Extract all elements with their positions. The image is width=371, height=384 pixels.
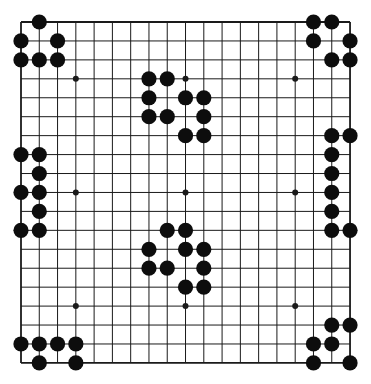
black-stone[interactable] [324, 52, 339, 67]
black-stone[interactable] [178, 90, 193, 105]
black-stone[interactable] [32, 52, 47, 67]
black-stone[interactable] [68, 336, 83, 351]
black-stone[interactable] [32, 336, 47, 351]
black-stone[interactable] [50, 33, 65, 48]
black-stone[interactable] [13, 52, 28, 67]
black-stone[interactable] [324, 223, 339, 238]
star-point [183, 189, 189, 195]
black-stone[interactable] [32, 185, 47, 200]
black-stone[interactable] [13, 223, 28, 238]
black-stone[interactable] [196, 242, 211, 257]
star-point [183, 303, 189, 309]
black-stone[interactable] [141, 242, 156, 257]
go-board[interactable] [0, 0, 371, 384]
black-stone[interactable] [13, 185, 28, 200]
black-stone[interactable] [141, 109, 156, 124]
star-point [292, 76, 298, 82]
black-stone[interactable] [50, 52, 65, 67]
black-stone[interactable] [32, 355, 47, 370]
black-stone[interactable] [160, 109, 175, 124]
star-point [73, 303, 79, 309]
star-point [292, 189, 298, 195]
black-stone[interactable] [178, 223, 193, 238]
black-stone[interactable] [141, 71, 156, 86]
black-stone[interactable] [324, 14, 339, 29]
black-stone[interactable] [324, 317, 339, 332]
black-stone[interactable] [324, 336, 339, 351]
black-stone[interactable] [32, 147, 47, 162]
black-stone[interactable] [342, 33, 357, 48]
black-stone[interactable] [324, 128, 339, 143]
black-stone[interactable] [324, 147, 339, 162]
black-stone[interactable] [32, 223, 47, 238]
black-stone[interactable] [160, 223, 175, 238]
black-stone[interactable] [68, 355, 83, 370]
black-stone[interactable] [196, 90, 211, 105]
black-stone[interactable] [32, 14, 47, 29]
black-stone[interactable] [342, 223, 357, 238]
black-stone[interactable] [306, 355, 321, 370]
black-stone[interactable] [196, 128, 211, 143]
star-point [183, 76, 189, 82]
black-stone[interactable] [342, 52, 357, 67]
black-stone[interactable] [13, 33, 28, 48]
black-stone[interactable] [342, 317, 357, 332]
black-stone[interactable] [342, 128, 357, 143]
black-stone[interactable] [160, 71, 175, 86]
black-stone[interactable] [324, 204, 339, 219]
black-stone[interactable] [342, 355, 357, 370]
star-point [73, 189, 79, 195]
star-point [292, 303, 298, 309]
black-stone[interactable] [32, 204, 47, 219]
black-stone[interactable] [141, 261, 156, 276]
black-stone[interactable] [141, 90, 156, 105]
black-stone[interactable] [13, 336, 28, 351]
black-stone[interactable] [178, 242, 193, 257]
star-point [73, 76, 79, 82]
black-stone[interactable] [32, 166, 47, 181]
black-stone[interactable] [306, 33, 321, 48]
black-stone[interactable] [324, 185, 339, 200]
black-stone[interactable] [324, 166, 339, 181]
black-stone[interactable] [306, 336, 321, 351]
black-stone[interactable] [160, 261, 175, 276]
black-stone[interactable] [196, 280, 211, 295]
black-stone[interactable] [178, 280, 193, 295]
black-stone[interactable] [196, 261, 211, 276]
black-stone[interactable] [178, 128, 193, 143]
black-stone[interactable] [196, 109, 211, 124]
black-stone[interactable] [50, 336, 65, 351]
black-stone[interactable] [13, 147, 28, 162]
black-stone[interactable] [306, 14, 321, 29]
